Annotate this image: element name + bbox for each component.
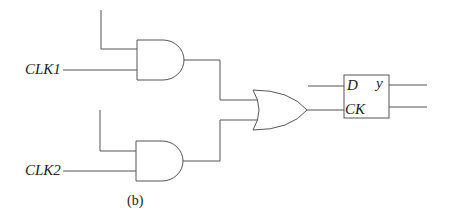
and1-output-wire — [184, 60, 258, 100]
and-gate-1 — [137, 40, 184, 80]
clk2-label: CLK2 — [25, 163, 61, 178]
and2-top-input-wire — [100, 110, 136, 151]
clk1-label: CLK1 — [25, 62, 61, 77]
pin-y-label: y — [376, 76, 383, 91]
circuit-drawing — [0, 0, 451, 221]
and1-top-input-wire — [101, 10, 137, 49]
figure-caption: (b) — [127, 194, 143, 208]
pin-ck-label: CK — [345, 102, 365, 117]
and2-output-wire — [183, 120, 258, 161]
logic-circuit-diagram: CLK1 CLK2 D CK y (b) — [0, 0, 451, 221]
and-gate-2 — [136, 141, 183, 181]
pin-d-label: D — [347, 78, 358, 93]
or-gate — [253, 90, 307, 130]
